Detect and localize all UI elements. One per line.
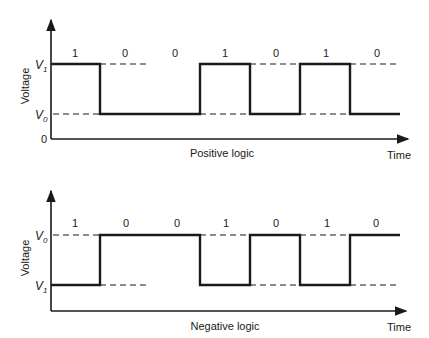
- svg-text:0: 0: [273, 217, 279, 229]
- bit-labels: 1 0 0 1 0 1 0: [72, 217, 379, 229]
- svg-text:1: 1: [222, 47, 228, 59]
- svg-text:0: 0: [374, 47, 380, 59]
- time-label: Time: [387, 149, 411, 161]
- svg-text:0: 0: [273, 47, 279, 59]
- v1-label: V1: [35, 58, 47, 74]
- svg-text:0: 0: [373, 217, 379, 229]
- svg-text:0: 0: [172, 47, 178, 59]
- svg-text:1: 1: [324, 217, 330, 229]
- logic-diagrams: V1 V0 0 Voltage 1 0 0 1 0 1 0 Positive l…: [0, 0, 429, 338]
- svg-text:1: 1: [72, 217, 78, 229]
- negative-logic-title: Negative logic: [190, 320, 260, 332]
- reference-lines: [53, 235, 400, 285]
- time-label: Time: [387, 321, 411, 333]
- positive-logic-title: Positive logic: [190, 147, 255, 159]
- positive-logic-diagram: V1 V0 0 Voltage 1 0 0 1 0 1 0 Positive l…: [19, 20, 411, 161]
- zero-label: 0: [41, 133, 47, 145]
- svg-text:1: 1: [72, 47, 78, 59]
- v0-label: V0: [35, 108, 48, 124]
- v1-label: V1: [35, 279, 47, 295]
- negative-logic-diagram: V0 V1 Voltage 1 0 0 1 0 1 0 Negative log…: [19, 191, 411, 333]
- svg-text:1: 1: [323, 47, 329, 59]
- svg-text:0: 0: [174, 217, 180, 229]
- y-axis-label: Voltage: [19, 68, 31, 105]
- svg-text:0: 0: [123, 217, 129, 229]
- svg-text:0: 0: [122, 47, 128, 59]
- y-axis-label: Voltage: [19, 240, 31, 277]
- negative-logic-waveform: [51, 235, 400, 285]
- reference-lines: [53, 64, 400, 114]
- bit-labels: 1 0 0 1 0 1 0: [72, 47, 380, 59]
- svg-text:1: 1: [223, 217, 229, 229]
- positive-logic-waveform: [51, 64, 400, 114]
- v0-label: V0: [35, 229, 48, 245]
